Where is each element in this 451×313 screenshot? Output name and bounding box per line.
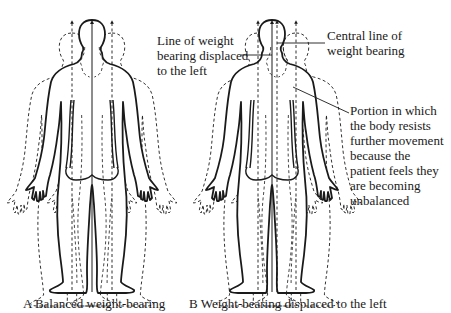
annotation-central-line-1: Central line of [327, 28, 405, 43]
caption-figure-b: B Weight-bearing displaced to the left [189, 296, 387, 311]
annotation-displaced-line-2: bearing displaced [157, 48, 248, 63]
annotation-displaced-line-3: to the left [157, 63, 248, 78]
figure-a-balanced [7, 20, 176, 306]
annotation-resist-portion: Portion in which the body resists furthe… [350, 103, 444, 208]
annotation-displaced-line: Line of weight bearing displaced to the … [157, 33, 248, 78]
annotation-resist-portion-5: patient feels they [350, 163, 444, 178]
annotation-resist-portion-3: further movement [350, 133, 444, 148]
annotation-resist-portion-4: because the [350, 148, 444, 163]
caption-figure-a: A Balanced weight-bearing [23, 296, 165, 311]
annotation-resist-portion-2: the body resists [350, 118, 444, 133]
annotation-displaced-line-1: Line of weight [157, 33, 248, 48]
annotation-resist-portion-6: are becoming [350, 178, 444, 193]
annotation-central-line: Central line of weight bearing [327, 28, 405, 58]
annotation-central-line-2: weight bearing [327, 43, 405, 58]
annotation-resist-portion-1: Portion in which [350, 103, 444, 118]
annotation-resist-portion-7: unbalanced [350, 193, 444, 208]
